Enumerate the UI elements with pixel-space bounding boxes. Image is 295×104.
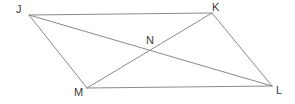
side-JK [29, 13, 212, 15]
geometry-figure: J K L M N [0, 0, 295, 104]
diagonal-MK [87, 13, 212, 88]
vertex-label-L: L [276, 85, 282, 96]
side-JM [29, 15, 87, 88]
figure-canvas [0, 0, 295, 104]
vertex-label-M: M [74, 87, 83, 98]
diagonal-JL [29, 15, 272, 86]
segments-group [29, 13, 272, 88]
vertex-label-J: J [16, 4, 22, 15]
vertex-label-K: K [212, 2, 219, 13]
side-KL [212, 13, 272, 86]
side-ML [87, 86, 272, 88]
vertex-label-N: N [146, 35, 154, 46]
